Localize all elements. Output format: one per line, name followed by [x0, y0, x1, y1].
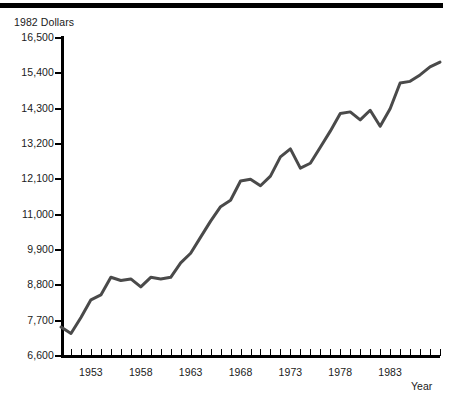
x-axis-title: Year: [411, 380, 432, 392]
data-series-line: [61, 62, 440, 333]
chart-plot-area: [0, 0, 451, 400]
